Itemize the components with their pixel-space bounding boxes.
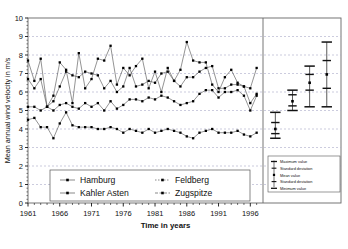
data-point-1988: [198, 93, 200, 95]
data-point-1993: [230, 83, 232, 85]
stat-legend-label: Maximum value: [280, 159, 307, 164]
mean-marker: [308, 81, 311, 84]
data-point-1980: [148, 80, 150, 82]
data-point-1993: [230, 69, 232, 71]
x-tick-label-1981: 1981: [147, 209, 164, 218]
y-axis: 012345678910Mean annual wind velocity in…: [3, 14, 28, 208]
stat-mean-marker: [273, 174, 275, 176]
data-point-1997: [255, 93, 257, 95]
data-point-1988: [198, 71, 200, 73]
data-point-1985: [179, 104, 181, 106]
series-legend: HamburgFeldbergKahler AstenZugspitze: [50, 170, 250, 201]
data-point-1990: [211, 65, 213, 67]
data-point-1963: [40, 109, 42, 111]
data-point-1971: [90, 106, 92, 108]
data-point-1976: [122, 132, 124, 134]
data-point-1981: [154, 71, 156, 73]
data-point-1977: [128, 74, 130, 76]
data-point-1976: [122, 104, 124, 106]
data-point-1962: [33, 117, 35, 119]
data-point-1984: [173, 100, 175, 102]
data-point-1985: [179, 132, 181, 134]
data-point-1992: [224, 132, 226, 134]
data-point-1965: [52, 100, 54, 102]
data-point-1970: [84, 87, 86, 89]
data-point-1976: [122, 67, 124, 69]
data-point-1973: [103, 109, 105, 111]
data-point-1972: [97, 58, 99, 60]
stat-legend-label: Standard deviation: [280, 166, 312, 171]
data-point-1974: [109, 45, 111, 47]
y-tick-label-9: 9: [19, 32, 23, 41]
data-point-1975: [116, 83, 118, 85]
data-point-1965: [52, 137, 54, 139]
data-point-1970: [84, 102, 86, 104]
data-point-1974: [109, 100, 111, 102]
data-point-1973: [103, 128, 105, 130]
data-point-1981: [154, 132, 156, 134]
data-point-1982: [160, 130, 162, 132]
stat-legend-label: Mean value: [280, 173, 300, 178]
data-point-1987: [192, 76, 194, 78]
data-point-1966: [59, 122, 61, 124]
legend-marker: [161, 192, 164, 195]
y-tick-label-6: 6: [19, 88, 23, 97]
data-point-1968: [71, 74, 73, 76]
y-tick-label-5: 5: [19, 106, 23, 115]
data-point-1969: [78, 52, 80, 54]
data-point-1966: [59, 104, 61, 106]
legend-label: Kahler Asten: [80, 188, 129, 198]
x-tick-label-1986: 1986: [178, 209, 195, 218]
data-point-1994: [236, 89, 238, 91]
data-point-1971: [90, 126, 92, 128]
data-point-1978: [135, 85, 137, 87]
data-point-1986: [186, 102, 188, 104]
data-point-1981: [154, 98, 156, 100]
x-axis-title: Time in years: [141, 221, 191, 230]
data-point-1962: [33, 106, 35, 108]
data-point-1969: [78, 126, 80, 128]
data-point-1972: [97, 74, 99, 76]
data-point-1996: [249, 135, 251, 137]
x-tick-label-1961: 1961: [20, 209, 37, 218]
data-point-1975: [116, 91, 118, 93]
data-point-1967: [65, 102, 67, 104]
x-tick-label-1996: 1996: [242, 209, 259, 218]
data-point-1992: [224, 87, 226, 89]
data-point-1990: [211, 83, 213, 85]
data-point-1988: [198, 132, 200, 134]
data-point-1969: [78, 108, 80, 110]
data-point-1978: [135, 130, 137, 132]
data-point-1967: [65, 69, 67, 71]
data-point-1989: [205, 61, 207, 63]
stat-legend-label: Minimum value: [280, 186, 306, 191]
data-point-1983: [167, 67, 169, 69]
data-point-1961: [27, 106, 29, 108]
data-point-1990: [211, 89, 213, 91]
data-point-1990: [211, 128, 213, 130]
stat-legend-label: Standard deviation: [280, 179, 312, 184]
data-point-1961: [27, 78, 29, 80]
data-point-1989: [205, 130, 207, 132]
data-point-1993: [230, 91, 232, 93]
data-point-1997: [255, 132, 257, 134]
data-point-1963: [40, 126, 42, 128]
data-point-1971: [90, 78, 92, 80]
data-point-1973: [103, 59, 105, 61]
y-tick-label-8: 8: [19, 51, 23, 60]
data-point-1991: [217, 96, 219, 98]
chart-canvas: 012345678910Mean annual wind velocity in…: [0, 0, 348, 249]
data-point-1963: [40, 58, 42, 60]
data-point-1983: [167, 128, 169, 130]
legend-label: Hamburg: [80, 175, 116, 185]
data-point-1993: [230, 132, 232, 134]
data-point-1996: [249, 102, 251, 104]
data-point-1977: [128, 98, 130, 100]
data-point-1989: [205, 67, 207, 69]
data-point-1995: [243, 133, 245, 135]
data-point-1977: [128, 67, 130, 69]
data-point-1987: [192, 137, 194, 139]
data-point-1968: [71, 102, 73, 104]
y-tick-label-7: 7: [19, 69, 23, 78]
data-point-1989: [205, 89, 207, 91]
